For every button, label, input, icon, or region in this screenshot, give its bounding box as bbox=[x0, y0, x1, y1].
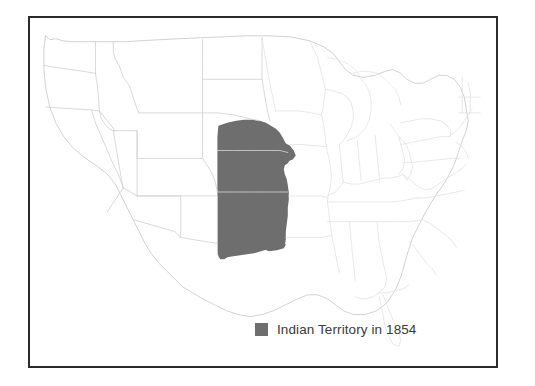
map-legend: Indian Territory in 1854 bbox=[255, 323, 416, 337]
map-figure: Indian Territory in 1854 bbox=[0, 0, 535, 386]
indian-territory-highlight bbox=[217, 120, 295, 259]
map-frame bbox=[28, 16, 498, 368]
legend-label: Indian Territory in 1854 bbox=[277, 323, 416, 337]
legend-swatch-icon bbox=[255, 323, 268, 336]
us-map-svg bbox=[30, 18, 496, 366]
